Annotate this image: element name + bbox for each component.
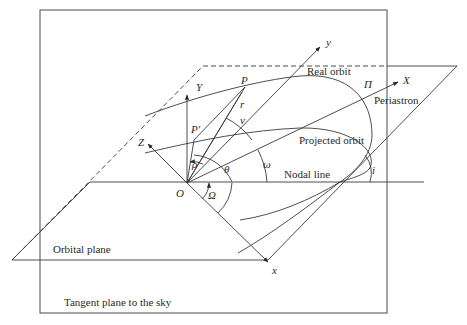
label-real-orbit: Real orbit <box>307 65 351 77</box>
label-P-prime: P′ <box>190 123 201 135</box>
axes <box>148 47 398 262</box>
big-Omega-arc <box>218 183 232 213</box>
label-y: y <box>325 36 331 48</box>
label-Pi: Π <box>363 78 373 90</box>
label-periastron: Periastron <box>374 94 419 106</box>
nu-angle-arc <box>226 118 252 140</box>
label-r: r <box>240 98 245 110</box>
label-Omega: Ω <box>208 189 216 201</box>
label-Y: Y <box>196 81 204 93</box>
x-axis <box>187 183 268 262</box>
label-sky-plane: Tangent plane to the sky <box>64 296 172 308</box>
orbit-geometry-diagram: y X Y Z x P P′ O Π r ρ ν θ ω Ω i Real or… <box>0 0 467 325</box>
label-orbital-plane: Orbital plane <box>53 243 111 255</box>
label-P: P <box>240 74 248 86</box>
real-orbit-curve <box>145 76 372 253</box>
label-x: x <box>271 264 277 276</box>
label-projected-orbit: Projected orbit <box>299 134 364 146</box>
y-axis <box>187 47 320 183</box>
label-X: X <box>402 74 411 86</box>
label-nodal-line: Nodal line <box>284 168 330 180</box>
label-Z: Z <box>138 136 145 148</box>
label-theta: θ <box>224 163 230 175</box>
Z-axis <box>148 144 187 183</box>
label-rho: ρ <box>191 158 197 170</box>
label-i: i <box>372 164 375 176</box>
label-O: O <box>176 187 184 199</box>
label-nu: ν <box>240 114 245 126</box>
label-omega: ω <box>263 158 271 170</box>
